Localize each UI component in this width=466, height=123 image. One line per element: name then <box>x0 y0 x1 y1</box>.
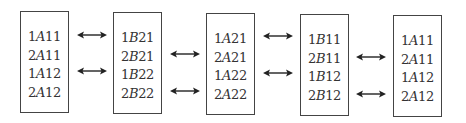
entry-suffix: 21 <box>138 30 154 45</box>
entry-letter: B <box>316 88 325 103</box>
entry-suffix: 11 <box>45 29 61 44</box>
box-entry: 1A12 <box>394 69 441 88</box>
box-5: 1A112A111A122A12 <box>393 15 442 117</box>
box-entry: 1B22 <box>114 66 161 85</box>
entry-suffix: 12 <box>325 88 341 103</box>
entry-letter: B <box>316 69 325 84</box>
entry-letter: A <box>36 66 45 81</box>
entry-suffix: 21 <box>231 31 247 46</box>
entry-index: 1 <box>308 69 316 84</box>
entry-letter: A <box>36 48 45 63</box>
entry-letter: B <box>129 86 138 101</box>
entry-index: 2 <box>121 86 129 101</box>
entry-suffix: 22 <box>231 68 247 83</box>
entry-suffix: 21 <box>138 49 154 64</box>
double-arrow-icon <box>356 52 386 62</box>
entry-suffix: 12 <box>418 89 434 104</box>
entry-letter: A <box>409 89 418 104</box>
entry-index: 1 <box>214 68 222 83</box>
double-arrow-icon <box>170 86 200 96</box>
box-3: 1A212A211A222A22 <box>206 13 255 115</box>
entry-index: 2 <box>401 89 409 104</box>
entry-index: 2 <box>308 88 316 103</box>
entry-suffix: 12 <box>418 70 434 85</box>
box-entry: 1B11 <box>301 31 348 50</box>
entry-index: 1 <box>28 29 36 44</box>
entry-index: 2 <box>214 50 222 65</box>
entry-letter: A <box>222 31 231 46</box>
entry-suffix: 21 <box>231 50 247 65</box>
box-entry: 1A22 <box>207 67 254 86</box>
box-entry: 2B21 <box>114 48 161 67</box>
box-entry: 2A21 <box>207 49 254 68</box>
double-arrow-icon <box>77 30 107 40</box>
box-entry: 2B12 <box>301 87 348 106</box>
entry-suffix: 11 <box>325 32 341 47</box>
entry-index: 2 <box>28 85 36 100</box>
entry-letter: A <box>36 85 45 100</box>
double-arrow-icon <box>263 31 293 41</box>
entry-index: 1 <box>28 66 36 81</box>
entry-letter: B <box>129 49 138 64</box>
entry-letter: B <box>129 67 138 82</box>
box-entries: 1A112A111A122A12 <box>394 32 441 106</box>
box-1: 1A112A111A122A12 <box>20 11 69 113</box>
entry-suffix: 11 <box>418 33 434 48</box>
entry-letter: B <box>316 51 325 66</box>
entry-index: 1 <box>308 32 316 47</box>
entry-index: 1 <box>401 70 409 85</box>
entry-letter: A <box>409 52 418 67</box>
box-entry: 1B21 <box>114 29 161 48</box>
double-arrow-icon <box>263 68 293 78</box>
entry-index: 2 <box>28 48 36 63</box>
entry-suffix: 12 <box>45 66 61 81</box>
entry-letter: A <box>222 50 231 65</box>
box-4: 1B112B111B122B12 <box>300 14 349 116</box>
entry-index: 1 <box>121 30 129 45</box>
box-2: 1B212B211B222B22 <box>113 12 162 114</box>
entry-letter: B <box>129 30 138 45</box>
box-entry: 1A12 <box>21 65 68 84</box>
entry-suffix: 22 <box>138 86 154 101</box>
box-entry: 1A21 <box>207 30 254 49</box>
box-entries: 1B112B111B122B12 <box>301 31 348 105</box>
box-entry: 2A12 <box>394 88 441 107</box>
entry-letter: A <box>409 70 418 85</box>
entry-suffix: 22 <box>231 87 247 102</box>
double-arrow-icon <box>170 49 200 59</box>
entry-index: 2 <box>214 87 222 102</box>
entry-suffix: 12 <box>45 85 61 100</box>
box-entry: 2A11 <box>394 51 441 70</box>
entry-letter: A <box>222 87 231 102</box>
entry-suffix: 11 <box>45 48 61 63</box>
entry-index: 2 <box>121 49 129 64</box>
entry-suffix: 11 <box>325 51 341 66</box>
entry-letter: A <box>409 33 418 48</box>
box-entries: 1B212B211B222B22 <box>114 29 161 103</box>
entry-index: 2 <box>401 52 409 67</box>
entry-index: 1 <box>121 67 129 82</box>
entry-letter: B <box>316 32 325 47</box>
box-entry: 2A12 <box>21 84 68 103</box>
box-entry: 2B22 <box>114 85 161 104</box>
entry-suffix: 12 <box>325 69 341 84</box>
box-entry: 2B11 <box>301 50 348 69</box>
box-entries: 1A212A211A222A22 <box>207 30 254 104</box>
entry-suffix: 11 <box>418 52 434 67</box>
double-arrow-icon <box>77 66 107 76</box>
entry-index: 2 <box>308 51 316 66</box>
entry-letter: A <box>222 68 231 83</box>
double-arrow-icon <box>356 89 386 99</box>
entry-index: 1 <box>214 31 222 46</box>
box-entry: 2A11 <box>21 47 68 66</box>
entry-index: 1 <box>401 33 409 48</box>
entry-suffix: 22 <box>138 67 154 82</box>
box-entry: 1B12 <box>301 68 348 87</box>
box-entry: 1A11 <box>21 28 68 47</box>
box-entries: 1A112A111A122A12 <box>21 28 68 102</box>
box-entry: 2A22 <box>207 86 254 105</box>
box-entry: 1A11 <box>394 32 441 51</box>
entry-letter: A <box>36 29 45 44</box>
